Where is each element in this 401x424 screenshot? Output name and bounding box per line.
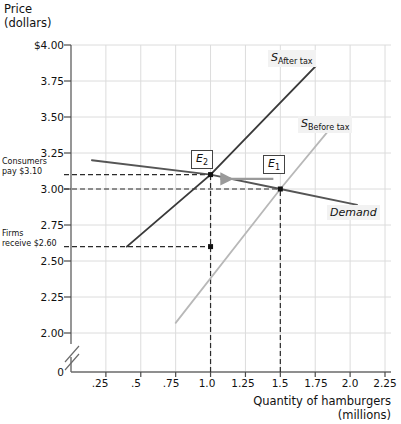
curve-label-supply-before-tax-symbol: S [301,117,308,130]
annotation-firms-receive: Firms receive $2.60 [2,229,57,249]
equilibrium-label-e2-sub: 2 [203,158,208,167]
equilibrium-label-e1-symbol: E [268,157,275,170]
curve-label-supply-after-tax: SAfter tax [268,50,316,67]
x-tick-2-0: 2.0 [330,377,370,389]
y-tick-3-75: 3.75 [4,75,64,87]
annotation-consumers-pay: Consumers pay $3.10 [2,157,47,177]
annotation-consumers-pay-line1: Consumers [2,157,47,166]
y-tick-3-50: 3.50 [4,111,64,123]
curve-label-supply-after-tax-symbol: S [271,51,278,64]
axis-break-mark-1 [65,346,79,362]
equilibrium-label-e1-sub: 1 [275,163,280,172]
y-tick-2-25: 2.25 [4,291,64,303]
curve-label-demand: Demand [327,205,380,220]
annotation-consumers-pay-line2: pay $3.10 [2,167,42,176]
x-tick-2-25: 2.25 [365,377,401,389]
axis-break-mark-2 [65,354,79,370]
equilibrium-label-e2-symbol: E [196,152,203,165]
guide-lines [64,175,280,372]
annotation-firms-receive-line1: Firms [2,229,23,238]
y-tick-2-50: 2.50 [4,255,64,267]
equilibrium-label-e2: E2 [191,150,213,169]
y-tick-3-00: 3.00 [4,183,64,195]
annotation-firms-receive-line2: receive $2.60 [2,239,57,248]
curve-label-supply-before-tax-sub: Before tax [308,123,349,132]
y-tick-zero: 0 [4,366,64,378]
curve-label-supply-before-tax: SBefore tax [298,116,352,133]
x-tick-0-75: .75 [151,377,191,389]
y-tick-2-00: 2.00 [4,327,64,339]
curve-lines [92,67,357,323]
x-tick-1-25: 1.25 [223,377,263,389]
curve-label-supply-after-tax-sub: After tax [278,57,313,66]
x-tick-1-5: 1.5 [260,377,300,389]
equilibrium-label-e1: E1 [263,155,285,174]
x-tick-0-5: .5 [116,377,156,389]
x-tick-1-0: 1.0 [187,377,227,389]
x-tick-0-25: .25 [80,377,120,389]
y-tick-4-00: $4.00 [4,39,64,51]
